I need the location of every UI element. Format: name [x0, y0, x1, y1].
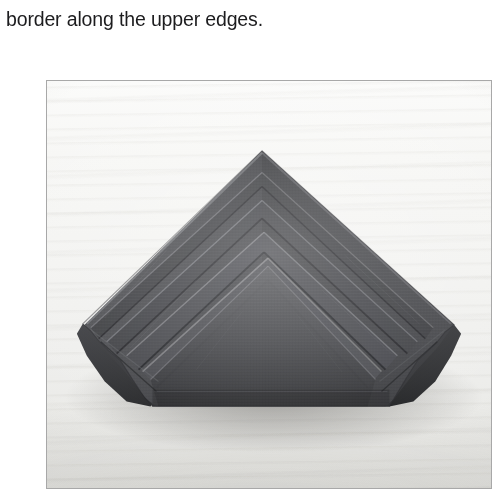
instruction-photo	[46, 80, 492, 489]
instruction-caption: border along the upper edges.	[6, 6, 456, 32]
folded-napkin-subject	[47, 81, 491, 488]
folded-napkin-illustration	[47, 81, 491, 488]
